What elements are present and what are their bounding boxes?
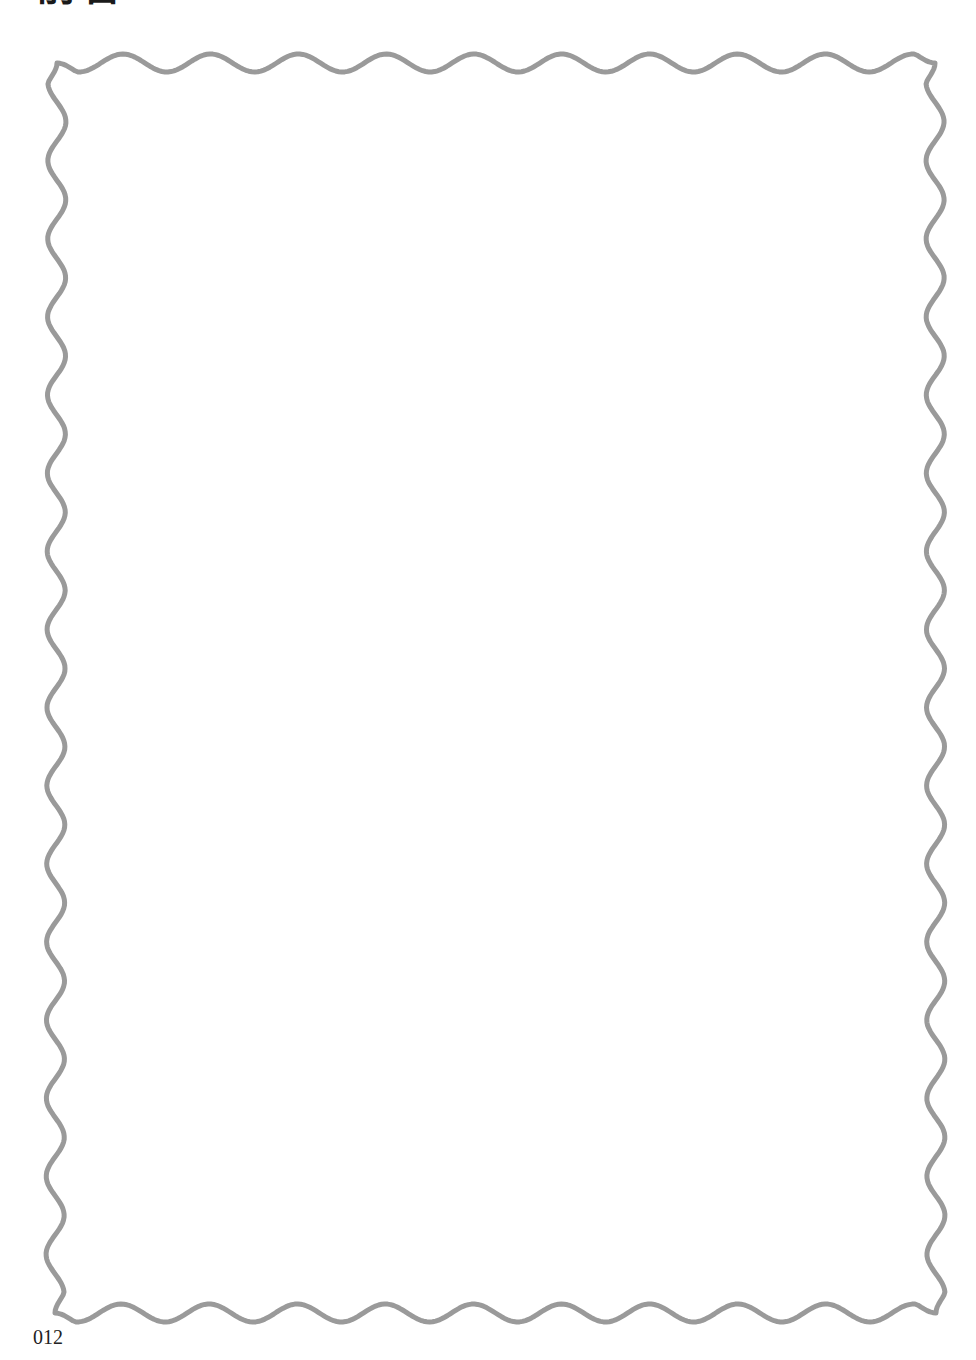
wavy-border-path <box>46 54 945 1322</box>
page-number: 012 <box>33 1326 63 1349</box>
wavy-border-frame <box>0 0 976 1360</box>
